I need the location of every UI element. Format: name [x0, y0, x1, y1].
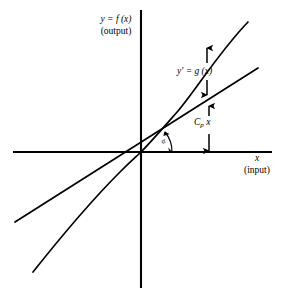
cpx-label-tail: x	[204, 117, 211, 127]
x-axis-label-line1: x	[255, 153, 259, 163]
figure-canvas	[0, 0, 284, 301]
line-cp-x	[15, 68, 258, 222]
figure-container: y = f (x) (output) x (input) y′ = g (x) …	[0, 0, 284, 301]
axes-group	[13, 10, 272, 288]
y-axis-label-line2: (output)	[88, 26, 144, 38]
x-axis-label-line2: (input)	[234, 165, 280, 177]
angle-arc-arrowhead-upper	[163, 132, 169, 136]
gx-annotation-label: y′ = g (x)	[177, 66, 212, 78]
y-axis-label-line1: y = f (x)	[101, 14, 132, 24]
x-axis-label: x (input)	[234, 153, 280, 177]
cpx-annotation-label: Cp x	[194, 117, 210, 130]
y-axis-label: y = f (x) (output)	[88, 14, 144, 38]
